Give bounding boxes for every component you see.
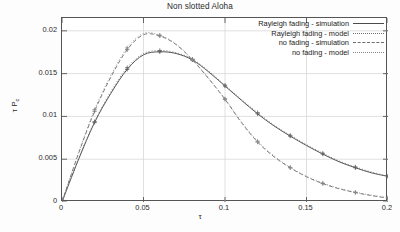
legend-label: no fading - model <box>292 48 349 57</box>
legend-line-sample <box>353 49 384 56</box>
legend-item-3[interactable]: no fading - simulation <box>205 38 384 48</box>
x-axis-label: τ <box>0 212 400 221</box>
y-tick-label: 0.02 <box>11 26 57 34</box>
legend-line-sample <box>353 39 384 46</box>
legend-item-4[interactable]: no fading - model <box>205 48 384 58</box>
chart-legend: Rayleigh fading - simulationRayleigh fad… <box>205 18 386 58</box>
y-tick-label: 0.005 <box>11 154 57 162</box>
data-point-marker <box>321 181 325 185</box>
data-point-marker <box>223 83 227 87</box>
x-tick-label: 0.15 <box>286 204 326 212</box>
legend-label: no fading - simulation <box>279 38 349 47</box>
legend-label: Rayleigh fading - model <box>271 29 349 38</box>
legend-line-sample <box>353 20 384 27</box>
legend-item-2[interactable]: Rayleigh fading - model <box>205 29 384 39</box>
legend-label: Rayleigh fading - simulation <box>258 19 349 28</box>
data-point-marker <box>288 165 292 169</box>
y-axis-label: τ Pc <box>10 82 21 128</box>
x-tick-label: 0.2 <box>367 204 400 212</box>
chart-title: Non slotted Aloha <box>0 2 400 11</box>
y-axis-label-subscript: c <box>14 98 20 101</box>
chart-figure: Non slotted Aloha τ Pc 00.0050.010.0150.… <box>0 0 400 232</box>
data-point-marker <box>353 190 357 194</box>
x-tick-label: 0.05 <box>123 204 163 212</box>
x-tick-label: 0 <box>41 204 81 212</box>
y-tick-label: 0.015 <box>11 69 57 77</box>
data-point-marker <box>386 174 388 178</box>
x-tick-label: 0.1 <box>204 204 244 212</box>
y-tick-label: 0.01 <box>11 111 57 119</box>
data-point-marker <box>386 196 388 200</box>
legend-item-1[interactable]: Rayleigh fading - simulation <box>205 19 384 29</box>
data-point-marker <box>158 33 162 37</box>
legend-line-sample <box>353 30 384 37</box>
